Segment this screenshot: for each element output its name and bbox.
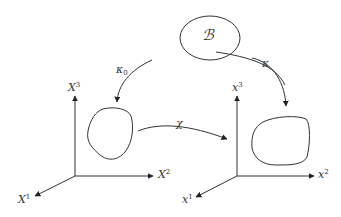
current-configuration	[252, 117, 310, 165]
reference-configuration	[88, 108, 133, 159]
kappa0-label: κ0	[116, 64, 128, 77]
cur-axis-x3-label: x3	[232, 82, 243, 93]
ref-axis-x2-label: X2	[158, 169, 170, 180]
body-label: ℬ	[202, 28, 214, 43]
kappa-label: κ	[262, 58, 269, 69]
cur-axis-x1	[196, 176, 237, 197]
ref-axis-x1	[35, 176, 75, 196]
ref-axis-x3-label: X3	[68, 82, 80, 93]
cur-axis-x2-label: x2	[318, 169, 329, 180]
diagram-canvas	[0, 0, 341, 217]
chi-label: χ	[176, 118, 183, 129]
ref-axis-x1-label: X1	[18, 194, 30, 205]
cur-axis-x1-label: x1	[182, 194, 193, 205]
